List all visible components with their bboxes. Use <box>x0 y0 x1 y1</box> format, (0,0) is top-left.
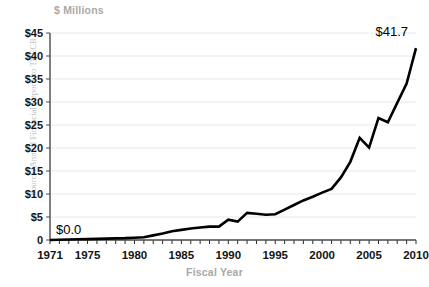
x-axis-tick-label: 1971 <box>37 249 63 261</box>
x-axis-tick-label: 1990 <box>216 249 242 261</box>
data-series-line <box>50 48 416 240</box>
x-axis-tick-label: 2005 <box>356 249 382 261</box>
x-axis-tick-label: 1980 <box>122 249 148 261</box>
chart-figure: Source: Annual Financial Reports to THEC… <box>0 0 429 287</box>
y-axis-tick-label: $15 <box>25 165 43 177</box>
y-axis-tick-label: $5 <box>31 211 43 223</box>
y-axis-tick-labels: $45$40$35$30$25$20$15$10$50 <box>25 27 43 246</box>
y-axis-tick-label: $45 <box>25 27 43 39</box>
line-chart-plot: $45$40$35$30$25$20$15$10$50 197119751980… <box>0 0 429 287</box>
y-axis-tick-label: $20 <box>25 142 43 154</box>
x-axis-tick-label: 1985 <box>169 249 195 261</box>
x-axis-tick-label: 1995 <box>262 249 288 261</box>
y-axis-tick-label: $10 <box>25 188 43 200</box>
x-axis-tick-label: 2000 <box>309 249 335 261</box>
x-axis-tick-label: 1975 <box>75 249 101 261</box>
data-point-label: $0.0 <box>56 222 81 237</box>
y-axis-tick-label: $25 <box>25 119 43 131</box>
y-axis-tick-label: $40 <box>25 50 43 62</box>
x-axis-tick-label: 2010 <box>403 249 429 261</box>
data-point-label: $41.7 <box>375 24 408 39</box>
x-axis-title: Fiscal Year <box>0 266 429 278</box>
y-axis-tick-label: 0 <box>37 234 43 246</box>
y-axis-tick-label: $30 <box>25 96 43 108</box>
gridlines <box>50 33 416 217</box>
x-axis-tick-labels: 197119751980198519901995200020052010 <box>37 249 429 261</box>
y-axis-tick-label: $35 <box>25 73 43 85</box>
